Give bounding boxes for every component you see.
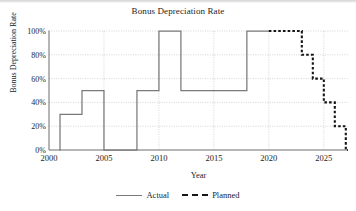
series-line-planned <box>269 31 348 150</box>
legend-item-planned: Planned <box>182 190 239 200</box>
legend-line-planned-icon <box>182 194 208 196</box>
legend-line-actual-icon <box>116 195 142 196</box>
bonus-depreciation-chart: Bonus Depreciation Rate Bonus Depreciati… <box>0 0 356 211</box>
chart-legend: Actual Planned <box>0 190 356 200</box>
plot-area <box>0 0 356 211</box>
series-line-actual <box>60 31 269 150</box>
legend-item-actual: Actual <box>116 190 169 200</box>
legend-label-actual: Actual <box>146 190 169 200</box>
legend-label-planned: Planned <box>212 190 239 200</box>
